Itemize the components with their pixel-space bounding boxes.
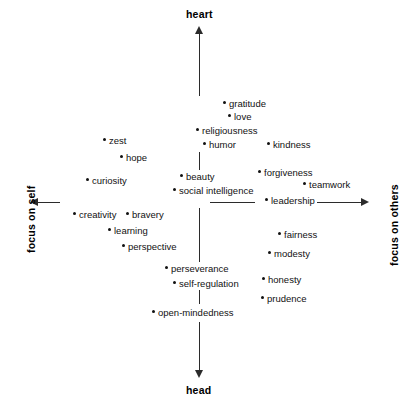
data-point-open-mindedness: open-mindedness xyxy=(152,306,234,318)
bullet-point-icon xyxy=(86,178,89,181)
data-point-label: self-regulation xyxy=(179,278,239,289)
bullet-point-icon xyxy=(258,170,261,173)
data-point-label: leadership xyxy=(271,195,315,206)
axis-pole-label-focus-on-others: focus on others xyxy=(388,184,399,266)
data-point-label: gratitude xyxy=(229,98,266,109)
data-point-label: prudence xyxy=(267,293,307,304)
axis-arrow-right-icon xyxy=(361,198,369,206)
bullet-point-icon xyxy=(173,188,176,191)
data-point-label: modesty xyxy=(274,248,310,259)
data-point-kindness: kindness xyxy=(267,138,311,150)
axis-pole-label-focus-on-self: focus on self xyxy=(25,186,37,253)
bullet-point-icon xyxy=(228,114,231,117)
bullet-point-icon xyxy=(303,182,306,185)
bullet-point-icon xyxy=(265,198,268,201)
bullet-point-icon xyxy=(126,212,129,215)
axis-arrow-up-icon xyxy=(195,26,203,34)
data-point-teamwork: teamwork xyxy=(303,178,350,190)
data-point-label: creativity xyxy=(79,209,116,220)
axis-mask-left xyxy=(60,196,210,208)
data-point-label: learning xyxy=(114,225,148,236)
data-point-label: bravery xyxy=(132,209,164,220)
data-point-label: honesty xyxy=(268,274,301,285)
data-point-label: beauty xyxy=(186,171,215,182)
bullet-point-icon xyxy=(261,296,264,299)
bullet-point-icon xyxy=(223,101,226,104)
bullet-point-icon xyxy=(73,212,76,215)
data-point-forgiveness: forgiveness xyxy=(258,166,313,178)
data-point-label: love xyxy=(234,111,251,122)
bullet-point-icon xyxy=(196,128,199,131)
data-point-zest: zest xyxy=(103,134,126,146)
axis-pole-label-head: head xyxy=(186,384,211,396)
data-point-love: love xyxy=(228,110,251,122)
data-point-learning: learning xyxy=(108,224,148,236)
bullet-point-icon xyxy=(268,251,271,254)
data-point-self-regulation: self-regulation xyxy=(173,277,239,289)
data-point-label: curiosity xyxy=(92,175,127,186)
data-point-gratitude: gratitude xyxy=(223,97,266,109)
data-point-label: humor xyxy=(209,139,236,150)
data-point-fairness: fairness xyxy=(278,228,317,240)
data-point-label: kindness xyxy=(273,139,311,150)
bullet-point-icon xyxy=(173,281,176,284)
data-point-label: teamwork xyxy=(309,179,350,190)
bullet-point-icon xyxy=(165,266,168,269)
data-point-perseverance: perseverance xyxy=(165,262,229,274)
data-point-religiousness: religiousness xyxy=(196,124,257,136)
character-strengths-quadrant-diagram: heart head focus on self focus on others… xyxy=(0,0,399,408)
data-point-label: perseverance xyxy=(171,263,229,274)
data-point-creativity: creativity xyxy=(73,208,116,220)
data-point-leadership: leadership xyxy=(265,194,315,206)
bullet-point-icon xyxy=(108,228,111,231)
bullet-point-icon xyxy=(203,142,206,145)
axis-arrow-down-icon xyxy=(195,370,203,378)
bullet-point-icon xyxy=(262,277,265,280)
data-point-beauty: beauty xyxy=(180,170,215,182)
data-point-label: open-mindedness xyxy=(158,307,234,318)
data-point-label: zest xyxy=(109,135,126,146)
bullet-point-icon xyxy=(122,244,125,247)
data-point-hope: hope xyxy=(120,151,147,163)
data-point-curiosity: curiosity xyxy=(86,174,127,186)
data-point-label: perspective xyxy=(128,241,177,252)
data-point-perspective: perspective xyxy=(122,240,177,252)
bullet-point-icon xyxy=(267,142,270,145)
data-point-honesty: honesty xyxy=(262,273,301,285)
bullet-point-icon xyxy=(278,232,281,235)
data-point-prudence: prudence xyxy=(261,292,307,304)
bullet-point-icon xyxy=(152,310,155,313)
bullet-point-icon xyxy=(103,138,106,141)
bullet-point-icon xyxy=(120,155,123,158)
bullet-point-icon xyxy=(180,174,183,177)
axis-pole-label-heart: heart xyxy=(186,8,213,20)
data-point-humor: humor xyxy=(203,138,236,150)
data-point-label: religiousness xyxy=(202,125,257,136)
data-point-social-intelligence: social intelligence xyxy=(173,184,253,196)
data-point-label: forgiveness xyxy=(264,167,313,178)
data-point-label: fairness xyxy=(284,229,317,240)
data-point-label: hope xyxy=(126,152,147,163)
data-point-bravery: bravery xyxy=(126,208,164,220)
data-point-label: social intelligence xyxy=(179,185,253,196)
data-point-modesty: modesty xyxy=(268,247,310,259)
